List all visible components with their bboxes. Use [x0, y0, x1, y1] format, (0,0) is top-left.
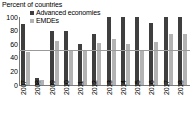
bar-group — [162, 17, 176, 85]
bar-group — [19, 17, 33, 85]
bar-groups — [19, 17, 190, 85]
reference-line-50 — [19, 50, 190, 51]
legend-label-advanced-economies: Advanced economies — [36, 9, 100, 17]
y-tick-label: 100 — [1, 14, 18, 21]
legend-label-emdes: EMDEs — [36, 17, 59, 25]
y-tick-label: 60 — [1, 41, 18, 48]
chart-title: Percent of countries — [2, 0, 62, 9]
bar-group — [147, 17, 161, 85]
x-tick-cell: 2014 — [119, 86, 133, 113]
bar-group — [133, 17, 147, 85]
bar-advanced-economies — [107, 17, 111, 85]
x-tick-cell: 2010 — [62, 86, 76, 113]
y-tick-label: 40 — [1, 54, 18, 61]
y-tick-label: 80 — [1, 27, 18, 34]
chart-legend: Advanced economies EMDEs — [30, 9, 100, 25]
bar-advanced-economies — [149, 23, 153, 85]
x-tick-label: 2007 — [20, 80, 27, 95]
legend-item-advanced-economies: Advanced economies — [30, 9, 100, 17]
bar-emdes — [154, 42, 158, 85]
x-tick-cell: 2018 — [176, 86, 190, 113]
y-axis-tick-labels: 100806040200 — [0, 17, 18, 85]
x-tick-cell: 2013 — [105, 86, 119, 113]
bar-emdes — [169, 34, 173, 85]
bar-advanced-economies — [121, 17, 125, 85]
bar-advanced-economies — [50, 31, 54, 85]
bar-advanced-economies — [135, 17, 139, 85]
x-tick-cell: 2008 — [33, 86, 47, 113]
x-tick-cell: 2015 — [133, 86, 147, 113]
bar-advanced-economies — [178, 17, 182, 85]
x-tick-cell: 2016 — [147, 86, 161, 113]
x-tick-label: 2014 — [120, 80, 127, 95]
x-tick-cell: 2017 — [162, 86, 176, 113]
x-tick-cell: 2009 — [48, 86, 62, 113]
y-tick-label: 20 — [1, 68, 18, 75]
plot-area — [19, 17, 190, 85]
x-tick-cell: 2011 — [76, 86, 90, 113]
x-tick-label: 2011 — [77, 81, 84, 95]
bar-advanced-economies — [92, 34, 96, 85]
x-tick-label: 2015 — [134, 80, 141, 95]
bar-group — [48, 17, 62, 85]
x-tick-label: 2013 — [106, 80, 113, 95]
bar-emdes — [183, 34, 187, 85]
bar-group — [76, 17, 90, 85]
legend-item-emdes: EMDEs — [30, 17, 100, 25]
x-axis-tick-labels: 2007200820092010201120122013201420152016… — [19, 86, 190, 113]
bar-group — [90, 17, 104, 85]
bar-advanced-economies — [21, 24, 25, 85]
bar-emdes — [112, 39, 116, 85]
x-tick-label: 2008 — [34, 80, 41, 95]
legend-swatch-icon — [30, 11, 34, 15]
x-tick-label: 2016 — [148, 80, 155, 95]
bar-emdes — [55, 41, 59, 85]
x-tick-label: 2018 — [177, 80, 184, 95]
bar-group — [119, 17, 133, 85]
x-tick-cell: 2012 — [90, 86, 104, 113]
x-tick-label: 2017 — [163, 80, 170, 95]
x-tick-label: 2009 — [49, 80, 56, 95]
x-tick-cell: 2007 — [19, 86, 33, 113]
bar-group — [105, 17, 119, 85]
x-tick-label: 2012 — [91, 80, 98, 95]
chart-container: Percent of countries Advanced economies … — [0, 0, 192, 113]
y-tick-label: 0 — [1, 82, 18, 89]
bar-group — [176, 17, 190, 85]
bar-group — [33, 17, 47, 85]
bar-group — [62, 17, 76, 85]
bar-advanced-economies — [64, 31, 68, 85]
bar-advanced-economies — [164, 17, 168, 85]
legend-swatch-icon — [30, 19, 34, 23]
x-tick-label: 2010 — [63, 80, 70, 95]
